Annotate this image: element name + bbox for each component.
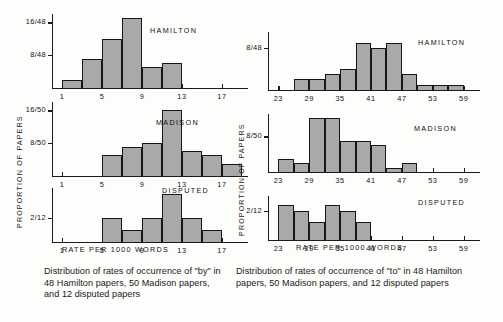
histogram-bar [356, 43, 371, 90]
x-axis-tick [433, 236, 434, 240]
histogram-bar [325, 205, 340, 240]
x-axis-line [52, 88, 248, 89]
x-axis-tick [371, 236, 372, 240]
x-axis-tick [62, 172, 63, 176]
panel-to-madison: 8/5023293541475359MADISON [268, 114, 474, 172]
x-axis-tick-label: 53 [418, 94, 448, 103]
histogram-bar [142, 218, 162, 242]
x-axis-tick [222, 84, 223, 88]
x-axis-line [52, 242, 248, 243]
histogram-bar [386, 43, 401, 90]
histogram-bar [402, 163, 417, 172]
histogram-bar [325, 74, 340, 90]
histogram-bar [278, 159, 293, 172]
histogram-bar [278, 205, 293, 240]
x-axis-tick-label: 59 [449, 176, 479, 185]
x-axis-tick-label: 47 [387, 94, 417, 103]
histogram-bar [294, 163, 309, 172]
x-axis-tick-label: 35 [325, 176, 355, 185]
histogram-bar [122, 147, 142, 176]
histogram-bar [162, 194, 182, 242]
x-axis-tick-label: 53 [418, 244, 448, 253]
histogram-bar [142, 67, 162, 88]
y-axis-title-left: PROPORTION OF PAPERS [16, 115, 24, 228]
panel-by-madison: 16/508/501591317MADISON [52, 102, 242, 176]
x-axis-tick [433, 168, 434, 172]
panel-by-hamilton: 16/488/481591317HAMILTON [52, 14, 242, 88]
histogram-bar [386, 168, 401, 172]
histogram-bar [371, 145, 386, 172]
histogram-bar [182, 151, 202, 176]
histogram-bar [433, 85, 448, 90]
histogram-bar [202, 230, 222, 242]
histogram-bar [417, 85, 432, 90]
x-axis-tick-label: 9 [127, 92, 157, 101]
x-axis-tick-label: 13 [167, 246, 197, 255]
x-axis-tick-label: 47 [387, 176, 417, 185]
y-axis-tick-label: 8/48 [226, 43, 262, 52]
histogram-bar [340, 141, 355, 172]
histogram-bar [82, 59, 102, 88]
histogram-bar [340, 211, 355, 240]
histogram-bar [356, 141, 371, 172]
x-axis-tick-label: 53 [418, 176, 448, 185]
panel-to-hamilton: 8/4823293541475359HAMILTON [268, 32, 474, 90]
x-axis-tick [62, 238, 63, 242]
y-axis-line [268, 114, 269, 172]
x-axis-tick [464, 236, 465, 240]
y-axis-tick-label: 8/48 [10, 50, 46, 59]
histogram-bar [102, 39, 122, 88]
x-axis-tick-label: 59 [449, 94, 479, 103]
x-axis-line [52, 176, 248, 177]
panel-label-by-madison: MADISON [156, 118, 199, 127]
figure-root: PROPORTION OF PAPERS 16/488/481591317HAM… [0, 0, 503, 322]
caption-left: Distribution of rates of occurrence of "… [44, 266, 222, 301]
x-axis-tick-label: 23 [263, 244, 293, 253]
y-axis-tick-label: 8/50 [10, 138, 46, 147]
histogram-bar [371, 48, 386, 90]
histogram-bar [122, 230, 142, 242]
caption-right: Distribution of rates of occurrence of "… [236, 266, 466, 289]
x-axis-tick-label: 23 [263, 94, 293, 103]
x-axis-tick [278, 86, 279, 90]
y-axis-tick [48, 22, 53, 23]
x-axis-tick [182, 84, 183, 88]
x-axis-tick [402, 236, 403, 240]
histogram-bar [356, 222, 371, 240]
histogram-bar [182, 218, 202, 242]
y-axis-tick [48, 55, 53, 56]
histogram-bar [309, 118, 324, 172]
panel-label-to-madison: MADISON [414, 124, 457, 133]
y-axis-line [268, 32, 269, 90]
y-axis-tick-label: 16/48 [10, 17, 46, 26]
histogram-bar [102, 218, 122, 242]
x-axis-title-right: RATE PER 1000 WORDS [296, 243, 403, 252]
histogram-bar [340, 69, 355, 90]
y-axis-tick [264, 48, 269, 49]
y-axis-line [52, 102, 53, 176]
y-axis-tick [264, 136, 269, 137]
x-axis-title-left: RATE PER 1000 WORDS [62, 245, 169, 254]
panel-label-to-hamilton: HAMILTON [418, 38, 465, 47]
y-axis-tick [48, 218, 53, 219]
panel-to-disputed: 2/1223293541475359DISPUTED [268, 196, 474, 240]
histogram-bar [202, 155, 222, 176]
histogram-bar [448, 85, 463, 90]
histogram-bar [62, 80, 82, 88]
y-axis-tick [264, 211, 269, 212]
histogram-bar [309, 79, 324, 90]
y-axis-tick-label: 16/50 [10, 105, 46, 114]
x-axis-tick-label: 1 [47, 92, 77, 101]
x-axis-line [268, 90, 480, 91]
y-axis-tick-label: 2/12 [10, 213, 46, 222]
y-axis-line [52, 14, 53, 88]
histogram-bar [402, 74, 417, 90]
histogram-bar [102, 155, 122, 176]
histogram-bar [325, 118, 340, 172]
histogram-bar [294, 79, 309, 90]
chart-by: PROPORTION OF PAPERS 16/488/481591317HAM… [0, 0, 244, 322]
panel-by-disputed: 2/121591317DISPUTED [52, 188, 242, 242]
y-axis-line [268, 196, 269, 240]
panel-label-to-disputed: DISPUTED [418, 198, 465, 207]
histogram-bar [122, 18, 142, 88]
